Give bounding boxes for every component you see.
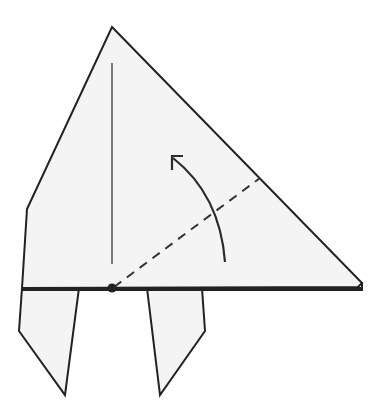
diagram-canvas	[0, 0, 386, 411]
right-leg-flap	[147, 288, 205, 395]
left-leg-flap	[19, 288, 79, 395]
pivot-point-dot	[108, 284, 117, 293]
main-paper-body	[22, 27, 362, 288]
origami-diagram	[0, 0, 386, 411]
